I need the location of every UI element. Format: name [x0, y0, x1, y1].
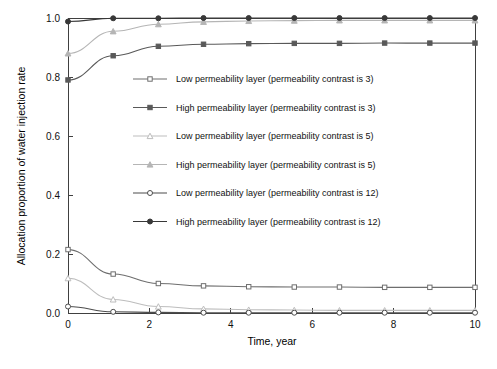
series-line: [68, 250, 475, 288]
x-tick-label: 4: [228, 319, 234, 330]
data-point: [337, 285, 341, 289]
data-point: [246, 310, 251, 315]
series-line: [68, 278, 475, 310]
data-point: [156, 16, 161, 21]
y-tick-label: 0.0: [46, 308, 60, 319]
axis-ticks: 02468100.00.20.40.60.81.0: [46, 13, 481, 331]
figure-container: Allocation proportion of water injection…: [0, 0, 497, 369]
x-tick-label: 10: [469, 319, 481, 330]
series-0: [66, 247, 477, 289]
legend-item-label: Low permeability layer (permeability con…: [176, 131, 374, 141]
legend-item-label: Low permeability layer (permeability con…: [176, 74, 374, 84]
data-point: [473, 285, 477, 289]
data-point: [292, 310, 297, 315]
data-point: [337, 41, 341, 45]
legend-marker: [148, 191, 153, 196]
data-point: [382, 285, 386, 289]
legend-item-label: Low permeability layer (permeability con…: [176, 188, 379, 198]
page-caption-strip: [0, 356, 497, 369]
data-point: [201, 284, 205, 288]
data-point: [428, 41, 432, 45]
legend: Low permeability layer (permeability con…: [133, 74, 381, 227]
data-point: [246, 16, 251, 21]
y-tick-label: 0.2: [46, 249, 60, 260]
data-point: [382, 16, 387, 21]
y-tick-label: 0.6: [46, 131, 60, 142]
data-point: [111, 16, 116, 21]
legend-item-0[interactable]: Low permeability layer (permeability con…: [133, 74, 374, 84]
data-point: [66, 78, 70, 82]
y-tick-label: 0.4: [46, 190, 60, 201]
legend-item-2[interactable]: Low permeability layer (permeability con…: [133, 131, 374, 141]
data-point: [473, 310, 478, 315]
legend-item-5[interactable]: High permeability layer (permeability co…: [133, 217, 381, 227]
legend-item-label: High permeability layer (permeability co…: [176, 217, 381, 227]
series-3: [65, 18, 478, 56]
legend-item-4[interactable]: Low permeability layer (permeability con…: [133, 188, 379, 198]
line-chart: Allocation proportion of water injection…: [0, 0, 497, 369]
legend-item-label: High permeability layer (permeability co…: [176, 160, 376, 170]
data-point: [66, 304, 71, 309]
data-point: [156, 281, 160, 285]
x-tick-label: 2: [147, 319, 153, 330]
data-point: [111, 272, 115, 276]
legend-item-1[interactable]: High permeability layer (permeability co…: [133, 103, 376, 113]
data-point: [337, 310, 342, 315]
data-point: [247, 41, 251, 45]
data-point: [111, 54, 115, 58]
x-tick-label: 0: [65, 319, 71, 330]
legend-marker: [148, 105, 152, 109]
data-point: [337, 16, 342, 21]
data-point: [111, 309, 116, 314]
series-2: [65, 275, 478, 313]
legend-item-label: High permeability layer (permeability co…: [176, 103, 376, 113]
data-point: [382, 310, 387, 315]
data-point: [201, 16, 206, 21]
x-tick-label: 6: [309, 319, 315, 330]
series-5: [66, 16, 478, 25]
data-point: [292, 285, 296, 289]
y-tick-label: 0.8: [46, 72, 60, 83]
legend-marker: [148, 219, 153, 224]
data-point: [66, 247, 70, 251]
data-point: [66, 19, 71, 24]
x-tick-label: 8: [391, 319, 397, 330]
y-axis-title: Allocation proportion of water injection…: [15, 67, 27, 266]
data-point: [201, 310, 206, 315]
data-point: [427, 310, 432, 315]
x-axis-title: Time, year: [247, 335, 297, 347]
series-line: [68, 20, 475, 53]
data-point: [247, 285, 251, 289]
data-point: [473, 16, 478, 21]
data-point: [156, 310, 161, 315]
legend-marker: [148, 77, 152, 81]
data-point: [201, 42, 205, 46]
data-point: [473, 41, 477, 45]
y-tick-label: 1.0: [46, 13, 60, 24]
data-point: [156, 44, 160, 48]
data-point: [428, 285, 432, 289]
data-point: [292, 41, 296, 45]
data-point: [292, 16, 297, 21]
data-point: [382, 41, 386, 45]
legend-item-3[interactable]: High permeability layer (permeability co…: [133, 160, 376, 170]
data-point: [427, 16, 432, 21]
